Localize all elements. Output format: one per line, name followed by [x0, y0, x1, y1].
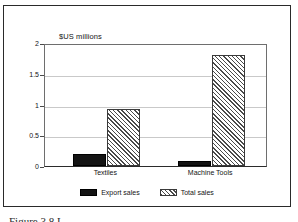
legend-item-total-sales: Total sales [160, 189, 214, 196]
y-tick-mark [40, 167, 44, 168]
x-axis-label-textiles: Textiles [55, 169, 155, 176]
y-tick-mark [40, 136, 44, 137]
legend-label: Export sales [101, 189, 140, 196]
legend-label: Total sales [181, 189, 214, 196]
y-tick-label: 0.5 [18, 132, 39, 139]
y-tick-label: 2 [18, 40, 39, 47]
y-tick-label: 1.5 [18, 71, 39, 78]
y-axis-title: $US millions [59, 32, 102, 41]
figure-caption: Figure 3.8 L [9, 215, 64, 222]
y-tick-label: 0 [18, 163, 39, 170]
legend-swatch-hatched [160, 189, 177, 196]
bar-machine-tools-total-sales [212, 55, 245, 166]
figure-frame: $US millions Export salesTotal sales Fig… [3, 5, 291, 207]
plot-area [44, 44, 267, 167]
y-tick-label: 1 [18, 102, 39, 109]
chart-legend: Export salesTotal sales [4, 189, 290, 196]
x-axis-label-machine-tools: Machine Tools [160, 169, 260, 176]
legend-item-export-sales: Export sales [80, 189, 140, 196]
bar-chart: $US millions Export salesTotal sales Fig… [4, 6, 290, 206]
bar-textiles-total-sales [107, 109, 140, 166]
bar-textiles-export-sales [73, 154, 106, 166]
y-tick-mark [40, 106, 44, 107]
y-tick-mark [40, 44, 44, 45]
legend-swatch-solid [80, 189, 97, 196]
bar-machine-tools-export-sales [178, 161, 211, 166]
y-tick-mark [40, 75, 44, 76]
